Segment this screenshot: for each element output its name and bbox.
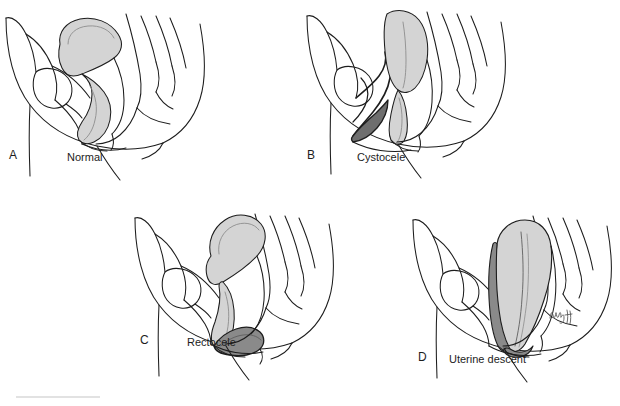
rectum-anterior xyxy=(112,58,124,134)
panel-rectocele: C Rectocele xyxy=(125,198,425,403)
panel-letter-c: C xyxy=(140,334,149,346)
thigh-left xyxy=(330,103,331,174)
artist-signature xyxy=(548,306,574,326)
uterus-fundus xyxy=(59,18,122,76)
cystocele-fold xyxy=(353,78,368,122)
sacral-segment-4 xyxy=(473,64,476,94)
bladder-neck xyxy=(473,306,489,320)
rectum-anterior xyxy=(251,256,264,334)
panel-rectocele-illustration xyxy=(125,198,425,403)
abdominal-wall xyxy=(413,220,443,274)
thigh-left xyxy=(158,305,159,376)
sacral-segment-3 xyxy=(285,216,301,266)
sacrum-outer xyxy=(570,226,612,345)
panel-letter-b: B xyxy=(307,149,315,161)
uterus-body xyxy=(206,215,265,284)
figure-root: A Normal xyxy=(0,0,620,406)
urethra xyxy=(462,302,489,346)
sacral-segment-5 xyxy=(577,220,593,270)
anal-canal xyxy=(418,136,420,152)
sacral-segment-1 xyxy=(442,14,457,60)
sacral-curve xyxy=(137,108,170,124)
panel-name-cystocele: Cystocele xyxy=(357,151,405,163)
vagina-shade xyxy=(389,90,407,144)
buttock-line xyxy=(271,343,292,359)
cervix-vagina-shade xyxy=(78,74,111,144)
anal-canal xyxy=(540,336,542,352)
bladder-neck xyxy=(195,304,211,318)
panel-name-normal: Normal xyxy=(67,151,102,163)
anal-canal xyxy=(111,134,113,150)
sacral-segment-1 xyxy=(270,216,285,262)
sacral-segment-2 xyxy=(457,60,460,90)
sacral-segment-5 xyxy=(471,16,487,66)
sacrum-inner xyxy=(126,14,141,108)
sacrum-outer xyxy=(464,22,506,141)
panel-normal: A Normal xyxy=(0,0,300,200)
coccyx xyxy=(285,292,302,309)
panel-name-uterine-descent: Uterine descent xyxy=(449,353,526,365)
buttock-line xyxy=(142,143,163,159)
sacral-segment-3 xyxy=(457,14,473,64)
sacral-segment-3 xyxy=(563,218,579,268)
abdominal-wall xyxy=(6,18,36,72)
sacrum-outer xyxy=(163,24,205,143)
descended-uterus-body xyxy=(496,220,552,351)
sacral-curve xyxy=(266,308,299,324)
sacral-segment-2 xyxy=(156,62,159,92)
sacral-segment-5 xyxy=(299,218,315,268)
coccyx xyxy=(156,92,173,109)
panel-name-rectocele: Rectocele xyxy=(187,336,236,348)
panel-letter-a: A xyxy=(9,149,17,161)
bladder-neck xyxy=(66,104,82,118)
panel-cystocele-illustration xyxy=(295,0,595,200)
panel-uterine-descent-illustration xyxy=(405,198,620,403)
sacral-segment-3 xyxy=(156,16,172,66)
sacrum-outer xyxy=(292,224,334,343)
footer-rule xyxy=(16,396,100,398)
panel-letter-d: D xyxy=(418,351,427,363)
sacral-segment-2 xyxy=(563,264,566,294)
sacrum-inner xyxy=(427,12,442,106)
sacral-segment-4 xyxy=(172,66,175,96)
buttock-line xyxy=(549,345,570,361)
panel-normal-illustration xyxy=(0,0,300,200)
thigh-left xyxy=(29,105,30,176)
sacral-segment-5 xyxy=(170,18,186,68)
thigh-left xyxy=(436,307,437,378)
sacral-curve xyxy=(438,106,471,122)
panel-uterine-descent: D Uterine descent xyxy=(405,198,620,403)
anal-canal xyxy=(260,349,262,364)
panel-cystocele: B Cystocele xyxy=(295,0,595,200)
sacral-segment-1 xyxy=(141,16,156,62)
coccyx xyxy=(457,90,474,107)
abdominal-wall xyxy=(135,218,165,272)
sacral-segment-2 xyxy=(285,262,288,292)
sacral-segment-4 xyxy=(301,266,304,296)
sacral-segment-4 xyxy=(579,268,582,298)
abdominal-wall xyxy=(307,16,337,70)
buttock-line xyxy=(443,141,464,157)
